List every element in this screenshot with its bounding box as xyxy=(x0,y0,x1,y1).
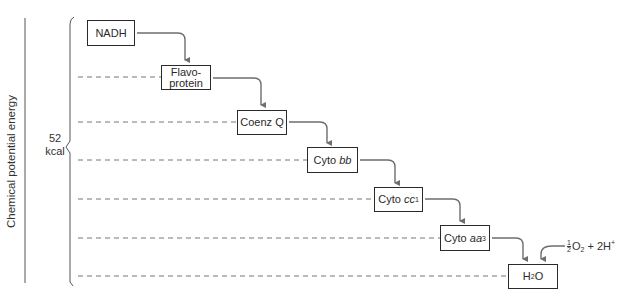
energy-unit: kcal xyxy=(44,145,66,158)
carrier-label-prefix: Cyto xyxy=(314,155,340,166)
carrier-cyto-bb: Cyto bb xyxy=(307,147,358,173)
carrier-cyto-aa3: Cyto aa3 xyxy=(440,225,490,251)
carrier-label-italic: aa xyxy=(470,233,482,244)
carrier-label-italic: bb xyxy=(339,155,351,166)
arrow-aa3-water xyxy=(492,238,523,259)
water-o: O xyxy=(535,271,544,282)
carrier-label-line1: Flavo- xyxy=(171,67,202,78)
carrier-coenzyme-q: Coenz Q xyxy=(237,110,287,135)
carrier-label-prefix: Cyto xyxy=(444,233,470,244)
arrow-cc1-aa3 xyxy=(425,199,460,221)
half-fraction: 12 xyxy=(567,240,571,253)
frac-den: 2 xyxy=(567,247,571,253)
carrier-label-italic: cc xyxy=(404,194,415,205)
carrier-label: NADH xyxy=(95,28,126,39)
proton-charge: + xyxy=(611,239,615,246)
carrier-label-line2: protein xyxy=(169,78,203,89)
energy-value: 52 xyxy=(44,132,66,145)
arrow-nadh-flavo xyxy=(137,33,185,60)
water-h: H xyxy=(523,271,531,282)
carrier-flavoprotein: Flavo- protein xyxy=(161,65,211,90)
brace-icon xyxy=(66,17,74,286)
carrier-label-prefix: Cyto xyxy=(378,194,404,205)
carrier-label-sub: 1 xyxy=(415,194,419,205)
axis-label: Chemical potential energy xyxy=(5,95,17,228)
arrow-oxygen-water xyxy=(541,246,565,259)
oxygen-input-label: 12O2 + 2H+ xyxy=(567,239,615,253)
carrier-nadh: NADH xyxy=(87,20,135,46)
proton-term: + 2H xyxy=(584,240,611,252)
arrow-flavo-coq xyxy=(213,78,261,105)
carrier-label-sub: 3 xyxy=(482,233,486,244)
arrow-bb-cc1 xyxy=(360,160,395,183)
arrow-coq-bb xyxy=(289,122,327,143)
energy-difference-label: 52 kcal xyxy=(44,132,66,158)
carrier-cyto-cc1: Cyto cc1 xyxy=(374,187,423,212)
product-water: H2O xyxy=(508,264,558,289)
carrier-label: Coenz Q xyxy=(240,117,283,128)
